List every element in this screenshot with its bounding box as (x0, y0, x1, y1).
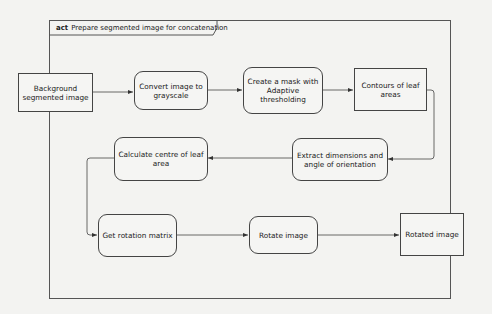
activity-diagram: actPrepare segmented image for concatena… (0, 0, 492, 314)
node-label: Background segmented image (22, 84, 89, 102)
frame-title: actPrepare segmented image for concatena… (50, 21, 228, 35)
frame-title-text: Prepare segmented image for concatenatio… (71, 24, 228, 32)
frame-keyword: act (56, 24, 68, 32)
node-label: Convert image to grayscale (138, 82, 204, 100)
node-label: Rotated image (405, 230, 459, 239)
node-label: Extract dimensions and angle of orientat… (296, 151, 384, 169)
node-label: Calculate centre of leaf area (118, 150, 204, 168)
node-convert-grayscale: Convert image to grayscale (134, 71, 208, 110)
node-contours-leaf-areas: Contours of leaf areas (354, 68, 427, 111)
diagram-connectors (0, 0, 492, 314)
node-rotate-image: Rotate image (249, 216, 318, 254)
node-label: Get rotation matrix (102, 231, 172, 240)
node-background-segmented-image: Background segmented image (18, 73, 93, 112)
node-label: Contours of leaf areas (358, 81, 423, 99)
node-calculate-centre: Calculate centre of leaf area (114, 137, 208, 181)
node-rotated-image: Rotated image (400, 213, 464, 256)
node-adaptive-threshold-mask: Create a mask with Adaptive thresholding (243, 67, 323, 114)
node-get-rotation-matrix: Get rotation matrix (98, 214, 177, 257)
node-label: Create a mask with Adaptive thresholding (247, 77, 319, 104)
node-label: Rotate image (259, 231, 308, 240)
node-extract-dimensions-angle: Extract dimensions and angle of orientat… (292, 138, 388, 181)
